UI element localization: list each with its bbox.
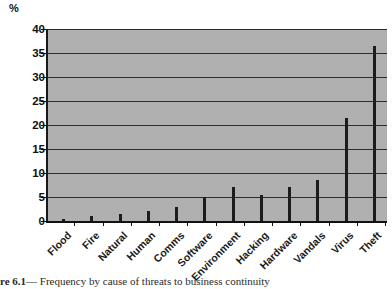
x-axis-tick [131,221,132,226]
bar [373,46,376,221]
gridline [48,125,387,126]
gridline [48,197,387,198]
x-axis-tick-label: Natural [95,229,129,263]
x-axis-tick [187,221,188,226]
x-axis-tick [103,221,104,226]
x-axis-tick-label: Virus [329,229,356,256]
x-axis-tick-label: Fire [79,229,101,251]
bar [119,214,122,221]
x-axis-tick-label: Theft [357,229,384,256]
plot-area [46,29,387,221]
figure-caption-dash: — [26,275,37,287]
x-axis-tick [159,221,160,226]
y-axis-unit-label: % [9,2,19,14]
bar [316,180,319,221]
bar [260,195,263,221]
figure-caption-number: re 6.1 [0,275,26,287]
x-axis-tick [216,221,217,226]
gridline [48,149,387,150]
figure-caption: re 6.1— Frequency by cause of threats to… [0,275,392,287]
figure-caption-text: Frequency by cause of threats to busines… [40,275,270,287]
x-axis-tick [300,221,301,226]
bar [288,187,291,221]
gridline [48,101,387,102]
bar [345,118,348,221]
gridline [48,53,387,54]
gridline [48,173,387,174]
x-axis-tick [329,221,330,226]
bar [203,197,206,221]
gridline [48,77,387,78]
x-axis-baseline [46,221,387,223]
x-axis-tick [385,221,386,226]
x-axis-tick [357,221,358,226]
x-axis-tick-label: Flood [44,229,73,258]
figure-6-1: % 0510152025303540 FloodFireNaturalHuman… [0,0,392,289]
x-axis-tick [244,221,245,226]
x-axis-tick [74,221,75,226]
x-axis-tick [272,221,273,226]
gridline [48,29,387,30]
bar [232,187,235,221]
bar [147,211,150,221]
bar [175,207,178,221]
